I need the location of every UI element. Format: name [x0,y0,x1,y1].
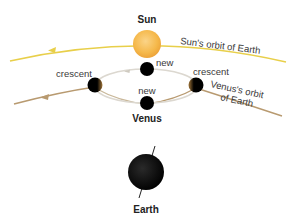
venus-new-top-icon [140,62,154,76]
venus-label: Venus [132,113,162,124]
venus-new-bottom-icon [140,96,154,110]
earth-icon [128,154,164,190]
phase-new-top-label: new [156,57,174,68]
venus-orbit-path [14,87,95,104]
sun-orbit-arrow-icon [48,47,56,53]
sun-icon [133,30,161,58]
sun-label: Sun [138,14,157,25]
venus-orbit-diagram: Sun Sun's orbit of Earth new crescent cr… [0,0,294,223]
phase-new-bottom-label: new [138,85,156,96]
sun-orbit-label: Sun's orbit of Earth [180,35,261,56]
venus-crescent-right-icon [189,78,204,93]
venus-crescent-left-icon [88,78,103,93]
earth-label: Earth [133,204,159,215]
venus-orbit-arrow-icon [40,94,49,100]
phase-crescent-left-label: crescent [56,68,92,79]
phase-crescent-right-label: crescent [193,66,229,77]
